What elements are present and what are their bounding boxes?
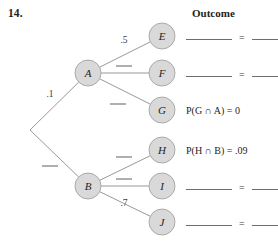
outcome-row-f: = (186, 67, 278, 79)
outcome-value-blank-e[interactable] (252, 32, 278, 40)
outcome-expression-blank-i[interactable] (186, 182, 232, 190)
node-label-b: B (85, 180, 92, 192)
equals-sign-f: = (232, 70, 252, 80)
problem-figure: 14. Outcome ABEFGHIJ .1.5.7 ==P(G ∩ A) =… (0, 0, 278, 244)
tree-node-f: F (149, 60, 175, 86)
outcome-expression-blank-j[interactable] (186, 218, 232, 226)
tree-edge-b-h (100, 156, 151, 181)
outcome-value-blank-i[interactable] (252, 182, 278, 190)
tree-node-j: J (149, 209, 175, 235)
outcome-expression-blank-f[interactable] (186, 69, 232, 77)
tree-node-e: E (149, 23, 175, 49)
tree-node-a: A (75, 60, 101, 86)
outcome-row-i: = (186, 180, 278, 192)
node-label-h: H (157, 144, 167, 156)
tree-node-b: B (75, 173, 101, 199)
node-label-g: G (158, 104, 166, 116)
outcome-formula-h: P(H ∩ B) = .09 (186, 146, 247, 156)
outcome-expression-blank-e[interactable] (186, 32, 232, 40)
tree-edge-a-g (100, 79, 151, 104)
tree-edge-root-a (30, 82, 79, 130)
equals-sign-i: = (232, 183, 252, 193)
equals-sign-j: = (232, 219, 252, 229)
tree-node-g: G (149, 97, 175, 123)
equals-sign-e: = (232, 33, 252, 43)
edge-probability-a-e: .5 (120, 35, 127, 45)
outcome-row-j: = (186, 216, 278, 228)
tree-node-i: I (149, 173, 175, 199)
edge-probability-b-j: .7 (120, 198, 127, 208)
node-label-f: F (158, 67, 166, 79)
node-label-e: E (158, 30, 166, 42)
edge-probability-root-a: .1 (46, 89, 53, 99)
outcome-formula-g: P(G ∩ A) = 0 (186, 106, 240, 116)
outcome-value-blank-j[interactable] (252, 218, 278, 226)
tree-edge-a-e (100, 42, 151, 67)
outcome-row-g: P(G ∩ A) = 0 (186, 105, 240, 117)
outcome-row-h: P(H ∩ B) = .09 (186, 145, 247, 157)
node-label-a: A (84, 67, 92, 79)
outcome-row-e: = (186, 30, 278, 42)
outcome-value-blank-f[interactable] (252, 69, 278, 77)
tree-node-h: H (149, 137, 175, 163)
tree-edge-root-b (30, 130, 79, 177)
